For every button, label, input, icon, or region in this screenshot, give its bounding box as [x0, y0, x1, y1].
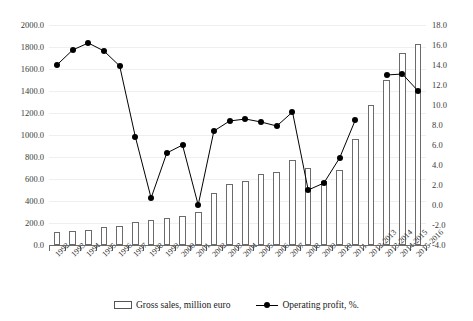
line-data-point: [54, 62, 60, 68]
legend-label-operating-profit: Operating profit, %.: [282, 300, 359, 310]
line-data-point: [384, 72, 390, 78]
line-data-point: [274, 123, 280, 129]
line-data-point: [227, 118, 233, 124]
line-data-point: [211, 128, 217, 134]
line-data-point: [180, 142, 186, 148]
x-axis-line: [49, 245, 426, 246]
legend-label-gross-sales: Gross sales, million euro: [136, 300, 230, 310]
line-marker-icon: [256, 301, 278, 309]
line-data-point: [164, 150, 170, 156]
line-data-point: [337, 155, 343, 161]
chart-container: 2000.01800.01600.01400.01200.01000.0800.…: [0, 0, 473, 321]
line-data-point: [101, 48, 107, 54]
chart-legend: Gross sales, million euro Operating prof…: [0, 300, 473, 310]
x-axis-tick: [49, 246, 50, 251]
line-data-point: [117, 63, 123, 69]
legend-item-operating-profit: Operating profit, %.: [256, 300, 359, 310]
line-data-point: [70, 47, 76, 53]
line-data-point: [321, 180, 327, 186]
legend-item-gross-sales: Gross sales, million euro: [114, 300, 230, 310]
bar-swatch-icon: [114, 301, 132, 309]
